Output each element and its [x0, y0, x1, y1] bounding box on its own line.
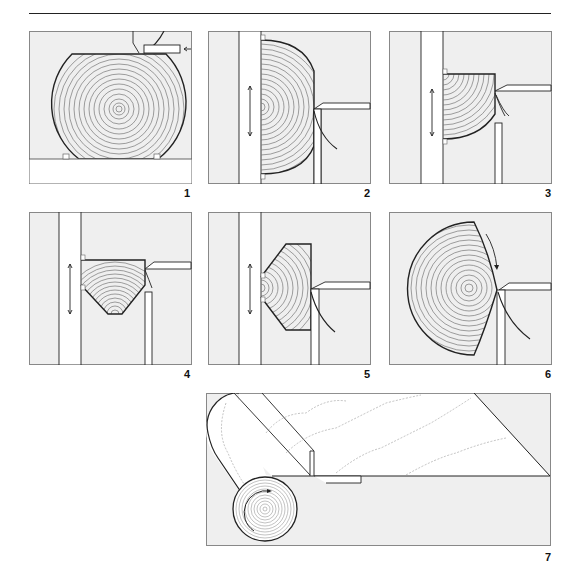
panel-1-drawing: [29, 31, 192, 184]
panel-6: [389, 212, 552, 365]
panel-4: [29, 212, 192, 365]
panel-5-label: 5: [364, 368, 370, 380]
panel-5: [208, 212, 371, 365]
panel-2-drawing: [208, 31, 371, 184]
panel-1-label: 1: [184, 187, 190, 199]
panel-4-drawing: [29, 212, 192, 365]
panel-6-drawing: [389, 212, 552, 365]
panel-3-label: 3: [545, 187, 551, 199]
panel-3: [389, 31, 552, 184]
panel-2-label: 2: [364, 187, 370, 199]
panel-7-label: 7: [545, 551, 551, 563]
panel-1: [29, 31, 192, 184]
panel-5-drawing: [208, 212, 371, 365]
panel-6-label: 6: [545, 368, 551, 380]
panel-3-drawing: [389, 31, 552, 184]
panel-7-drawing: [206, 393, 551, 546]
panel-7: [206, 393, 551, 546]
top-rule: [29, 13, 551, 14]
panel-2: [208, 31, 371, 184]
panel-4-label: 4: [184, 368, 190, 380]
